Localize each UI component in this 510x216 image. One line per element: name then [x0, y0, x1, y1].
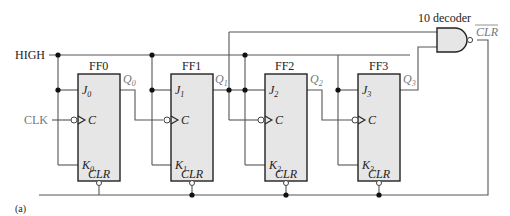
q0-wire [120, 90, 163, 120]
flipflop-ff2: FF2 J2 K2 C CLR Q2 [258, 59, 323, 186]
svg-text:CLR: CLR [88, 167, 111, 181]
figure-label: (a) [15, 203, 26, 215]
clk-label: CLK [24, 113, 48, 127]
svg-text:Q1: Q1 [215, 72, 228, 88]
svg-text:C: C [275, 113, 284, 127]
svg-text:FF0: FF0 [89, 59, 108, 73]
counter-circuit-diagram: FF0 J0 K0 C CLR Q0 FF1 J1 K1 C CLR Q1 FF… [0, 0, 510, 216]
flipflop-ff1: FF1 J1 K1 C CLR Q1 [164, 59, 228, 186]
svg-text:FF2: FF2 [275, 59, 294, 73]
flipflop-ff3: FF3 J3 K3 C CLR Q3 [352, 59, 416, 186]
svg-text:FF3: FF3 [369, 59, 388, 73]
flipflop-ff0: FF0 J0 K0 C CLR Q0 [71, 59, 136, 186]
svg-text:10 decoder: 10 decoder [418, 11, 471, 25]
svg-text:CLR: CLR [476, 25, 499, 39]
svg-text:Q2: Q2 [310, 72, 323, 88]
svg-text:Q3: Q3 [403, 72, 416, 88]
svg-text:CLR: CLR [181, 167, 204, 181]
svg-text:CLR: CLR [368, 167, 391, 181]
svg-text:Q0: Q0 [123, 72, 136, 88]
svg-text:C: C [368, 113, 377, 127]
svg-text:FF1: FF1 [182, 59, 201, 73]
high-label: HIGH [15, 48, 45, 62]
svg-text:CLR: CLR [275, 167, 298, 181]
svg-text:C: C [181, 113, 190, 127]
svg-text:C: C [88, 113, 97, 127]
q1-wiring [213, 32, 437, 165]
